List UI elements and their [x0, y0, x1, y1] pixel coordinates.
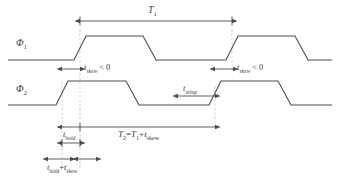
label-hold-plus-skew: thold+tskew	[47, 163, 77, 174]
label-hold: thold	[63, 130, 75, 141]
timing-diagram: Φ1 Φ2 T1 tskew < 0 tskew < 0 tsetup thol…	[0, 0, 338, 178]
waveform-phi1	[8, 36, 332, 60]
label-skew-right: tskew < 0	[237, 63, 263, 74]
label-skew-left: tskew < 0	[84, 63, 110, 74]
timing-diagram-canvas	[0, 0, 338, 178]
guide-lines	[62, 16, 232, 168]
dimension-t1	[80, 17, 232, 25]
label-period-t1: T1	[148, 5, 157, 18]
waveform-phi2	[8, 81, 332, 105]
signal-label-phi2: Φ2	[16, 84, 27, 97]
signal-label-phi1: Φ1	[16, 38, 27, 51]
label-period-t2: T2=T1+tskew	[118, 130, 159, 141]
label-setup: tsetup	[183, 84, 197, 95]
